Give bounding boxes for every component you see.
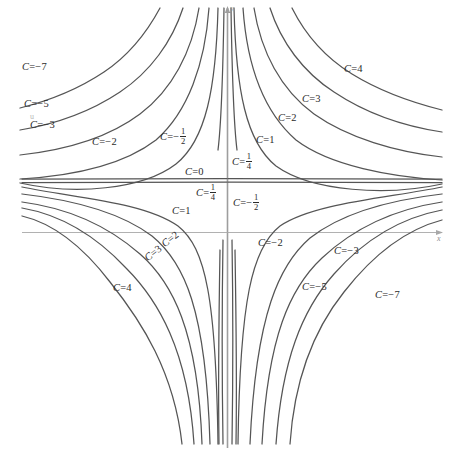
label-value: 0 [198, 166, 203, 177]
curve-c-neg-half-lr [238, 187, 442, 444]
curve-vert-left-inner [218, 8, 224, 150]
curve-c-neg2 [20, 8, 209, 179]
curves-lower-left [22, 187, 218, 444]
fraction-one-quarter: 14 [210, 183, 217, 202]
label-value: −3 [43, 119, 55, 130]
fraction-denominator: 2 [253, 203, 260, 212]
curve-c-zero-right [228, 182, 442, 183]
fraction-one-half: 12 [253, 193, 260, 212]
curve-vert-left-lower-b [219, 250, 220, 444]
curve-c-quarter-ll [22, 187, 218, 444]
label-minus: − [246, 197, 252, 208]
contour-plot-svg [0, 0, 453, 452]
curves-right-axis-pair [228, 179, 442, 183]
curve-label-c-neg5-ul: C=−5 [24, 99, 49, 110]
fraction-denominator: 4 [210, 193, 217, 202]
curve-label-c-2-ur: C=2 [278, 113, 297, 124]
y-axis-label: y [230, 4, 234, 13]
fraction-one-half: 12 [180, 127, 187, 146]
label-value: 4 [357, 63, 362, 74]
curve-label-c-quarter-ur: C=14 [232, 152, 252, 171]
curve-c-1 [243, 8, 442, 180]
contour-plot-figure: C=−7 C=−5 u C=−3 C=−2 C=−12 C=0 C=4 C=3 … [0, 0, 453, 452]
fraction-denominator: 2 [180, 137, 187, 146]
curve-label-c-quarter-ll: C=14 [196, 183, 216, 202]
curve-label-c-4-ll: C=4 [113, 283, 132, 294]
curve-label-c-1-ur: C=1 [256, 135, 275, 146]
label-value: 4 [126, 282, 131, 293]
curve-label-c-neg-half-ul: C=−12 [160, 127, 186, 146]
label-value: −2 [105, 136, 117, 147]
curve-label-c-neg2-lr: C=−2 [258, 238, 283, 249]
curve-vert-right-lower-b [235, 250, 236, 444]
label-value: 1 [269, 134, 274, 145]
curve-vert-right-inner [231, 8, 237, 150]
curve-c-neg7-lr [290, 220, 442, 444]
curve-label-c-neg3-ul: C=−3 [30, 120, 55, 131]
curve-label-c-neg3-lr: C=−3 [334, 246, 359, 257]
curves-upper-left [20, 8, 209, 179]
curve-vert-right-lower-a [232, 240, 233, 444]
curve-label-c-4-ur: C=4 [344, 64, 363, 75]
curve-label-c-1-ll: C=1 [172, 206, 191, 217]
label-minus: − [173, 131, 179, 142]
label-value: −5 [315, 281, 327, 292]
curves-upper-right [234, 8, 442, 190]
label-value: −2 [271, 237, 283, 248]
curve-c-neg5-lr [276, 210, 442, 444]
curve-label-c-zero: C=0 [185, 167, 204, 178]
curve-label-c-neg7-ul: C=−7 [22, 62, 47, 73]
x-axis-label: x [437, 234, 441, 243]
fraction-denominator: 4 [246, 162, 253, 171]
curves-lower-right [238, 187, 442, 444]
fraction-one-quarter: 14 [246, 152, 253, 171]
curve-label-c-neg-half-lr: C=−12 [233, 193, 259, 212]
curve-c-neg7 [20, 8, 160, 108]
label-equals: = [239, 156, 245, 167]
label-value: −7 [388, 289, 400, 300]
curve-label-c-3-ur: C=3 [302, 94, 321, 105]
label-value: 1 [185, 205, 190, 216]
curve-label-c-neg2-ul: C=−2 [92, 137, 117, 148]
label-value: −5 [37, 98, 49, 109]
label-value: −7 [35, 61, 47, 72]
curve-label-c-neg7-lr: C=−7 [375, 290, 400, 301]
label-value: 2 [291, 112, 296, 123]
label-value: 3 [315, 93, 320, 104]
curve-vert-left-lower-a [222, 240, 223, 444]
label-equals: = [203, 187, 209, 198]
curve-c-2 [254, 8, 442, 157]
curve-label-c-neg5-lr: C=−5 [302, 282, 327, 293]
label-value: −3 [347, 245, 359, 256]
curve-c-neg3-lr [262, 202, 442, 444]
